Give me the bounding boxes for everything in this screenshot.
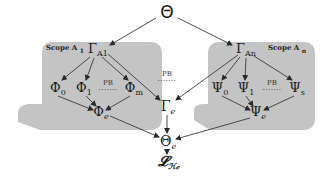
psi-sub: e (261, 112, 266, 121)
scope-an-label: Scope A n (268, 44, 306, 54)
gamma-symbol: Γ (88, 41, 97, 56)
psi-s-node: Ψs (289, 81, 305, 97)
phi-e-node: Φe (93, 105, 108, 121)
loss-sub: ℋ𝒸 (168, 161, 179, 171)
pb-dots: ······· (157, 79, 176, 83)
phi-sub: 0 (61, 88, 66, 97)
gamma-sub: An (245, 49, 256, 58)
psi-symbol: Ψ (212, 80, 223, 95)
phi-sub: 1 (87, 88, 92, 97)
loss-node: 𝓛ℋ𝒸 (158, 154, 179, 170)
theta-symbol: Θ (160, 133, 171, 149)
scope-label-sub: 1 (80, 47, 84, 54)
pb-label-scope-an: PB ······· (262, 80, 281, 92)
scope-label-sub: n (302, 47, 306, 54)
psi-symbol: Ψ (289, 80, 300, 95)
loss-symbol: 𝓛 (158, 153, 168, 169)
gamma-an-node: ΓAn (236, 42, 256, 58)
psi-symbol: Ψ (238, 80, 249, 95)
gamma-symbol: Γ (161, 98, 171, 114)
gamma-a1-node: ΓA1 (88, 42, 108, 58)
phi-sub: e (104, 112, 109, 121)
gamma-e-node: Γe (161, 99, 175, 116)
theta-e-node: Θe (160, 134, 176, 151)
psi-0-node: Ψ0 (212, 81, 229, 97)
phi-1-node: Φ1 (76, 81, 92, 97)
phi-sub: m (136, 88, 144, 97)
scope-a1-label: Scope A 1 (46, 44, 84, 54)
scope-label-text: Scope A (46, 43, 77, 52)
theta-sub: e (171, 142, 176, 151)
phi-m-node: Φm (125, 81, 143, 97)
theta-root-node: Θ (160, 4, 173, 21)
pb-dots: ······· (262, 88, 281, 92)
scope-label-text: Scope A (268, 43, 299, 52)
edge-theta-gamma-a1 (110, 18, 156, 45)
phi-symbol: Φ (125, 80, 136, 95)
pb-label-scope-a1: PB ······· (98, 80, 117, 92)
pb-label-middle: PB ······· (157, 71, 176, 83)
phi-symbol: Φ (76, 80, 87, 95)
gamma-symbol: Γ (236, 41, 245, 56)
phi-symbol: Φ (50, 80, 61, 95)
gamma-sub: e (170, 107, 175, 116)
pb-dots: ······· (98, 88, 117, 92)
psi-sub: s (301, 88, 305, 97)
edge-theta-gamma-an (178, 18, 232, 45)
psi-sub: 1 (249, 88, 254, 97)
psi-symbol: Ψ (250, 104, 261, 119)
phi-symbol: Φ (93, 104, 104, 119)
phi-0-node: Φ0 (50, 81, 66, 97)
gamma-sub: A1 (97, 49, 108, 58)
psi-e-node: Ψe (250, 105, 266, 121)
theta-symbol: Θ (160, 2, 173, 22)
psi-sub: 0 (223, 88, 228, 97)
psi-1-node: Ψ1 (238, 81, 255, 97)
